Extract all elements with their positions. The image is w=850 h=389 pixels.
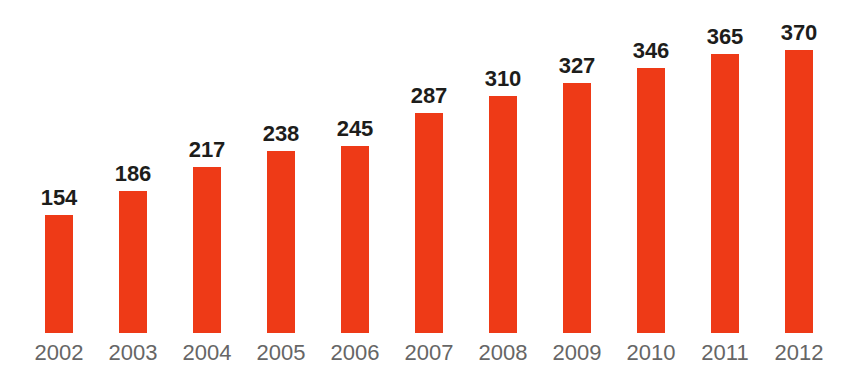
year-label-zone: 2011: [701, 333, 748, 389]
year-label: 2007: [405, 342, 454, 364]
bar: [637, 68, 665, 333]
value-label: 346: [633, 40, 670, 62]
year-label-zone: 2012: [775, 333, 824, 389]
bar: [119, 191, 147, 333]
value-label: 310: [485, 68, 522, 90]
bar-chart-columns: 1542002186200321720042382005245200628720…: [0, 0, 850, 389]
bar: [193, 167, 221, 333]
year-label-zone: 2003: [109, 333, 158, 389]
bar-column: 1542002: [22, 0, 96, 389]
year-label: 2006: [331, 342, 380, 364]
year-label: 2003: [109, 342, 158, 364]
year-label-zone: 2010: [627, 333, 676, 389]
bar-column: 2872007: [392, 0, 466, 389]
bar: [341, 146, 369, 333]
bar: [711, 54, 739, 333]
bar-column: 2382005: [244, 0, 318, 389]
value-label: 154: [41, 187, 78, 209]
year-label-zone: 2009: [553, 333, 602, 389]
bar: [267, 151, 295, 333]
value-label: 287: [411, 85, 448, 107]
value-label: 217: [189, 139, 226, 161]
bar: [415, 113, 443, 333]
bar-column: 3652011: [688, 0, 762, 389]
year-label-zone: 2007: [405, 333, 454, 389]
year-label: 2002: [35, 342, 84, 364]
bar: [489, 96, 517, 333]
bar-column: 3462010: [614, 0, 688, 389]
year-label-zone: 2004: [183, 333, 232, 389]
value-label: 365: [707, 26, 744, 48]
bar: [563, 83, 591, 333]
bar-column: 3272009: [540, 0, 614, 389]
value-label: 370: [781, 22, 818, 44]
bar-column: 1862003: [96, 0, 170, 389]
year-label-zone: 2002: [35, 333, 84, 389]
year-label: 2011: [701, 342, 748, 364]
year-label-zone: 2005: [257, 333, 306, 389]
bar: [785, 50, 813, 333]
bar-column: 3702012: [762, 0, 836, 389]
value-label: 238: [263, 123, 300, 145]
year-label: 2010: [627, 342, 676, 364]
year-label: 2004: [183, 342, 232, 364]
year-label: 2009: [553, 342, 602, 364]
year-label: 2005: [257, 342, 306, 364]
year-label-zone: 2008: [479, 333, 528, 389]
bar-chart: 1542002186200321720042382005245200628720…: [0, 0, 850, 389]
bar-column: 2172004: [170, 0, 244, 389]
value-label: 245: [337, 118, 374, 140]
bar: [45, 215, 73, 333]
year-label: 2008: [479, 342, 528, 364]
year-label: 2012: [775, 342, 824, 364]
bar-column: 2452006: [318, 0, 392, 389]
year-label-zone: 2006: [331, 333, 380, 389]
value-label: 186: [115, 163, 152, 185]
value-label: 327: [559, 55, 596, 77]
bar-column: 3102008: [466, 0, 540, 389]
